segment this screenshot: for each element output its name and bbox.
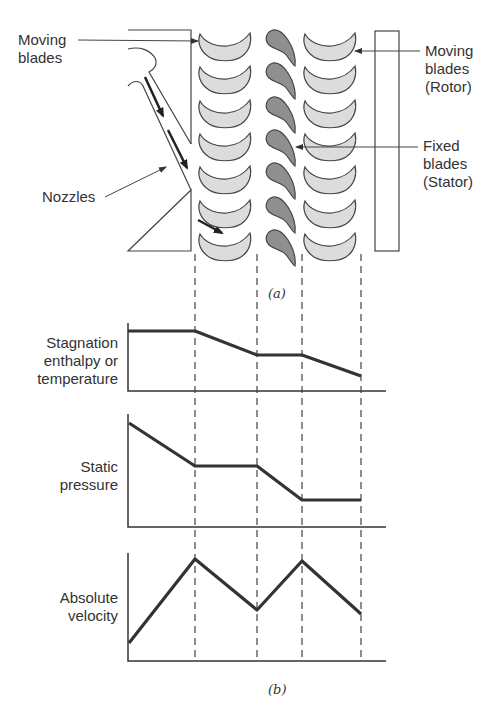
absolute-velocity-line	[129, 559, 361, 643]
station-guides	[195, 254, 361, 661]
ylabel-absolute-velocity: Absolute velocity	[10, 589, 118, 625]
ylabel-stagnation-enthalpy: Stagnation enthalpy or temperature	[10, 334, 118, 388]
stagnation-enthalpy-line	[128, 331, 361, 376]
label-fixed-blades-stator: Fixed blades (Stator)	[423, 137, 473, 191]
label-moving-blades-rotor: Moving blades (Rotor)	[425, 42, 473, 96]
caption-b: (b)	[268, 682, 286, 697]
ylabel-static-pressure: Static pressure	[10, 458, 118, 494]
caption-a: (a)	[268, 286, 286, 301]
label-nozzles: Nozzles	[42, 188, 95, 206]
static-pressure-line	[129, 423, 361, 500]
fixed-blades-stator	[266, 30, 295, 266]
moving-blades-row-1	[199, 33, 251, 261]
label-moving-blades-left: Moving blades	[18, 31, 66, 67]
casing-right	[375, 31, 399, 251]
